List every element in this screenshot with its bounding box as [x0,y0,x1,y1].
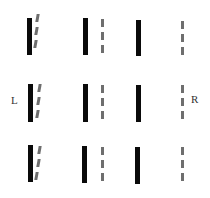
dash [181,98,184,106]
dash [101,111,104,119]
solid-bar [136,85,141,122]
dash [181,47,184,55]
tilted-dash [36,159,40,167]
left-label: L [11,95,18,106]
tilted-dash [34,27,38,35]
dash [181,160,184,168]
dash [181,111,184,119]
dash [181,147,184,155]
tilted-dash [37,84,41,92]
dash [101,173,104,181]
solid-bar [135,147,140,184]
dash [101,98,104,106]
solid-bar [82,146,87,183]
solid-bar [136,20,141,56]
solid-bar [83,84,88,122]
dash [101,160,104,168]
dash [101,32,104,40]
tilted-dash [36,97,40,105]
tilted-dash [33,40,37,48]
solid-bar [27,18,32,55]
tilted-dash [35,110,39,118]
dash [101,147,104,155]
dash [181,173,184,181]
dash [181,85,184,93]
dash [101,19,104,27]
dash [101,85,104,93]
solid-bar [28,84,33,122]
solid-bar [28,145,33,182]
solid-bar [83,18,88,55]
right-label: R [191,94,198,105]
dash [181,21,184,29]
tilted-dash [34,172,38,180]
tilted-dash [37,146,41,154]
tilted-dash [35,14,39,22]
dash [101,45,104,53]
dash [181,34,184,42]
